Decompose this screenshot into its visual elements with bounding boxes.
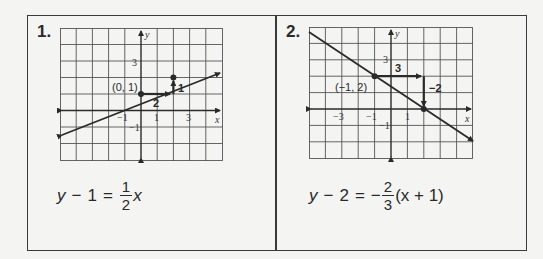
run-label: 3 — [395, 62, 401, 74]
point-neg1-2 — [372, 73, 378, 79]
x-axis-label: x — [464, 113, 470, 124]
y-tick-3: 3 — [132, 57, 137, 68]
rise-label: 1 — [178, 82, 184, 94]
y-tick-neg1: −1 — [379, 120, 390, 131]
run-label: 2 — [153, 97, 159, 109]
point-0-1 — [138, 91, 144, 97]
eq-fraction: 1 2 — [120, 179, 132, 212]
problem-1-number: 1. — [37, 22, 51, 42]
x-tick-3: 3 — [186, 112, 191, 123]
eq-lhs-op: − — [72, 186, 82, 206]
x-tick-neg1: −1 — [117, 112, 128, 123]
eq-rhs-tail: (x + 1) — [395, 186, 444, 206]
problem-2-graph: y x 3 −1 −3 −1 1 (−1, 2) 3 −2 — [309, 27, 475, 161]
rise-label: −2 — [429, 82, 442, 94]
eq-frac-den: 2 — [122, 196, 130, 212]
problem-1-graph: y x 3 −1 −1 1 3 (0, 1) 2 1 — [60, 28, 224, 162]
problem-1-equation: y − 1 = 1 2 x — [57, 179, 142, 212]
eq-equals: = — [103, 186, 113, 206]
x-tick-neg3: −3 — [333, 111, 344, 122]
eq-fraction: 2 3 — [382, 179, 394, 212]
eq-equals: = — [355, 186, 365, 206]
x-axis-label: x — [214, 114, 220, 125]
problem-2-equation: y − 2 = − 2 3 (x + 1) — [309, 179, 444, 212]
point-label: (0, 1) — [112, 81, 138, 93]
eq-lhs-var: y — [309, 186, 318, 206]
x-tick-neg1: −1 — [366, 111, 377, 122]
eq-frac-num: 1 — [120, 179, 132, 196]
eq-lhs-var: y — [57, 186, 66, 206]
eq-lhs-const: 2 — [339, 186, 348, 206]
eq-lhs-const: 1 — [87, 186, 96, 206]
eq-frac-num: 2 — [382, 179, 394, 196]
eq-rhs-tail: x — [133, 186, 142, 206]
point-2-0 — [421, 106, 427, 112]
eq-frac-sign: − — [371, 186, 381, 206]
point-2-2 — [170, 75, 176, 81]
x-tick-1: 1 — [154, 112, 159, 123]
y-axis-label: y — [394, 28, 400, 39]
eq-lhs-op: − — [324, 186, 334, 206]
y-tick-3: 3 — [383, 54, 388, 65]
panel-divider — [275, 15, 277, 251]
x-tick-1: 1 — [405, 111, 410, 122]
y-axis-label: y — [144, 29, 150, 40]
problem-2-number: 2. — [286, 22, 300, 42]
y-tick-neg1: −1 — [129, 122, 140, 133]
eq-frac-den: 3 — [384, 196, 392, 212]
point-label: (−1, 2) — [335, 81, 367, 93]
